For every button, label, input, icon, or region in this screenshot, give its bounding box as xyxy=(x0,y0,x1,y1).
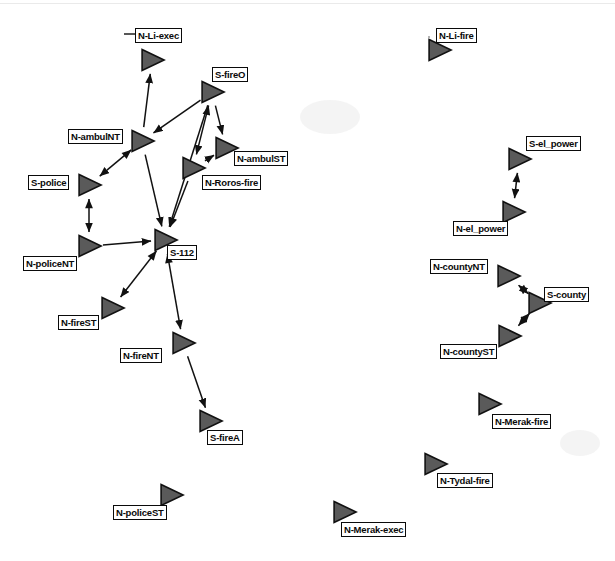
diagram-canvas: N-Li-execS-fireON-ambulNTN-ambulSTN-Roro… xyxy=(0,0,615,561)
node-triangle-icon[interactable] xyxy=(499,326,521,347)
node-label[interactable]: N-fireNT xyxy=(120,348,162,363)
node-label[interactable]: N-Li-fire xyxy=(436,28,477,43)
node-label[interactable]: N-ambulNT xyxy=(68,129,123,144)
node-triangle-icon[interactable] xyxy=(425,454,447,475)
graph-edge xyxy=(167,254,180,329)
graph-edges-layer xyxy=(0,0,615,561)
node-label[interactable]: S-fireA xyxy=(207,430,243,445)
node-group xyxy=(79,40,551,523)
node-triangle-icon[interactable] xyxy=(142,50,164,71)
graph-edge xyxy=(103,241,151,245)
node-label[interactable]: N-el_power xyxy=(453,221,508,236)
node-label[interactable]: N-Roros-fire xyxy=(202,175,261,190)
node-label[interactable]: S-112 xyxy=(167,245,197,260)
node-triangle-icon[interactable] xyxy=(479,394,501,415)
node-triangle-icon[interactable] xyxy=(334,502,356,523)
node-triangle-icon[interactable] xyxy=(200,411,222,432)
node-triangle-icon[interactable] xyxy=(202,82,224,103)
node-label[interactable]: N-policeNT xyxy=(23,256,77,271)
graph-edge xyxy=(519,285,529,294)
node-triangle-icon[interactable] xyxy=(79,236,101,257)
graph-edge xyxy=(100,150,131,176)
node-label[interactable]: N-Merak-fire xyxy=(492,414,551,429)
node-label[interactable]: S-police xyxy=(28,175,69,190)
node-label[interactable]: N-fireST xyxy=(58,315,99,330)
graph-edge xyxy=(153,100,200,133)
graph-edge xyxy=(144,74,151,127)
graph-edge xyxy=(215,106,222,135)
node-triangle-icon[interactable] xyxy=(102,298,124,319)
graph-edge xyxy=(145,155,162,227)
node-label[interactable]: S-el_power xyxy=(526,136,581,151)
graph-edge xyxy=(188,356,206,408)
node-triangle-icon[interactable] xyxy=(498,266,520,287)
node-triangle-icon[interactable] xyxy=(173,333,195,354)
graph-edge xyxy=(121,251,157,297)
graph-edge xyxy=(518,313,529,325)
node-triangle-icon[interactable] xyxy=(503,202,525,223)
node-triangle-icon[interactable] xyxy=(132,131,154,152)
node-triangle-icon[interactable] xyxy=(509,149,531,170)
node-label[interactable]: S-county xyxy=(544,287,589,302)
node-label[interactable]: N-policeST xyxy=(113,505,167,520)
node-label[interactable]: N-Merak-exec xyxy=(341,522,406,537)
graph-edge xyxy=(196,106,208,155)
node-triangle-icon[interactable] xyxy=(161,485,183,506)
graph-edge xyxy=(515,173,518,198)
node-label[interactable]: N-Li-exec xyxy=(135,28,182,43)
node-label[interactable]: N-countyST xyxy=(440,344,497,359)
graph-edge xyxy=(205,155,214,160)
node-label[interactable]: N-Tydal-fire xyxy=(437,473,493,488)
node-label[interactable]: N-ambulST xyxy=(234,151,288,166)
node-triangle-icon[interactable] xyxy=(79,175,101,196)
graph-edge xyxy=(170,181,188,227)
node-label[interactable]: N-countyNT xyxy=(430,259,488,274)
node-label[interactable]: S-fireO xyxy=(212,67,248,82)
